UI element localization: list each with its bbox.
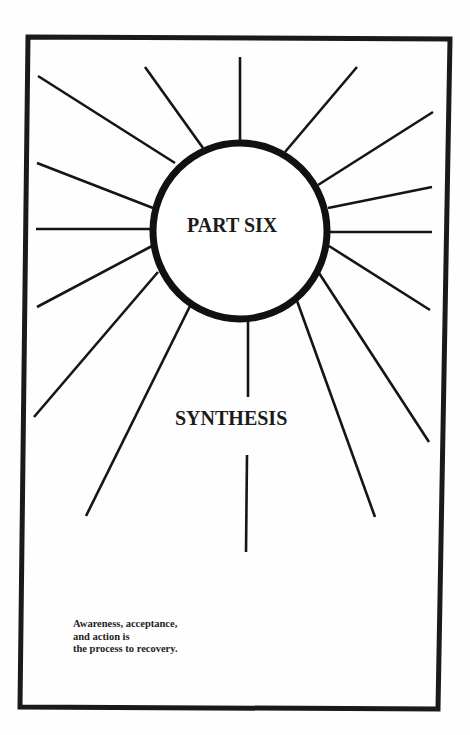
caption-line: the process to recovery. [73, 643, 178, 656]
ray [34, 272, 158, 417]
section-title: SYNTHESIS [175, 407, 287, 430]
ray [246, 455, 247, 552]
book-page: PART SIX SYNTHESIS Awareness, acceptance… [0, 0, 470, 735]
caption-line: Awareness, acceptance, [73, 618, 178, 631]
ray [292, 287, 375, 517]
part-label: PART SIX [187, 214, 277, 237]
caption-line: and action is [73, 631, 178, 644]
ray [37, 163, 153, 208]
ray [38, 76, 175, 163]
ray [145, 67, 203, 148]
ray [285, 67, 357, 152]
sunburst-illustration [0, 0, 470, 735]
ray [328, 187, 432, 208]
ray [329, 246, 430, 310]
caption: Awareness, acceptance, and action is the… [73, 618, 178, 656]
ray [318, 112, 433, 185]
